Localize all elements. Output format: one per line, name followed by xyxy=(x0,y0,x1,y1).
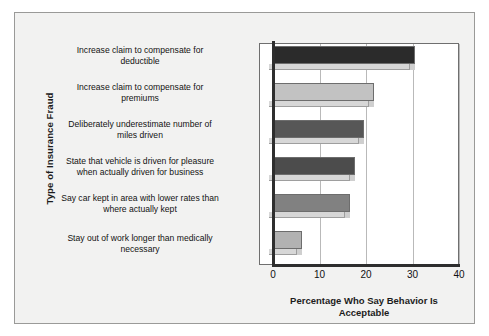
bar-group-1 xyxy=(274,83,374,120)
category-label-4: Say car kept in area with lower rates th… xyxy=(39,193,241,214)
chart-page-frame: Type of Insurance Fraud Increase claim t… xyxy=(14,12,475,324)
bar-1[interactable] xyxy=(274,83,374,101)
x-axis-tick-labels: 010203040 xyxy=(259,269,459,285)
category-label-5-line1: Stay out of work longer than medically xyxy=(67,233,212,243)
category-label-0-line1: Increase claim to compensate for xyxy=(77,45,204,55)
category-label-3: State that vehicle is driven for pleasur… xyxy=(39,156,241,177)
x-tick-label-30: 30 xyxy=(398,269,428,280)
category-label-3-line2: when actually driven for business xyxy=(77,167,204,177)
bar-side-0 xyxy=(410,64,415,70)
category-label-5: Stay out of work longer than medically n… xyxy=(39,233,241,254)
category-label-1-line2: premiums xyxy=(121,93,159,103)
insurance-fraud-bar-chart: Type of Insurance Fraud Increase claim t… xyxy=(0,0,489,336)
bar-side-4 xyxy=(345,212,350,218)
bar-group-5 xyxy=(274,231,302,268)
category-label-1-line1: Increase claim to compensate for xyxy=(77,82,204,92)
bar-5[interactable] xyxy=(274,231,302,249)
category-label-1: Increase claim to compensate for premium… xyxy=(39,82,241,103)
category-label-4-line2: where actually kept xyxy=(103,204,177,214)
bar-shadow-2 xyxy=(269,138,359,144)
gridline-40 xyxy=(459,44,460,264)
category-label-0-line2: deductible xyxy=(120,56,159,66)
bar-shadow-3 xyxy=(269,175,350,181)
bar-4[interactable] xyxy=(274,194,350,212)
category-label-0: Increase claim to compensate for deducti… xyxy=(39,45,241,66)
bar-group-4 xyxy=(274,194,350,231)
x-axis-title-line1: Percentage Who Say Behavior Is xyxy=(290,295,438,306)
bar-side-3 xyxy=(350,175,355,181)
category-label-2-line2: miles driven xyxy=(117,130,163,140)
x-axis-title: Percentage Who Say Behavior Is Acceptabl… xyxy=(259,295,469,319)
x-tick-label-0: 0 xyxy=(258,269,288,280)
x-tick-label-10: 10 xyxy=(305,269,335,280)
plot-area xyxy=(259,43,459,265)
x-axis-title-line2: Acceptable xyxy=(339,307,390,318)
category-label-3-line1: State that vehicle is driven for pleasur… xyxy=(66,156,214,166)
bar-side-1 xyxy=(369,101,374,107)
category-label-5-line2: necessary xyxy=(120,244,159,254)
bar-group-2 xyxy=(274,120,364,157)
category-label-2-line1: Deliberately underestimate number of xyxy=(68,119,211,129)
bar-0[interactable] xyxy=(274,46,415,64)
bar-side-2 xyxy=(359,138,364,144)
bar-shadow-0 xyxy=(269,64,410,70)
category-label-2: Deliberately underestimate number of mil… xyxy=(39,119,241,140)
category-label-column: Increase claim to compensate for deducti… xyxy=(39,43,241,265)
bar-shadow-1 xyxy=(269,101,369,107)
bar-2[interactable] xyxy=(274,120,364,138)
value-axis-line xyxy=(272,41,275,267)
bar-shadow-4 xyxy=(269,212,345,218)
bar-group-3 xyxy=(274,157,355,194)
x-tick-label-40: 40 xyxy=(444,269,474,280)
bar-group-0 xyxy=(274,46,415,83)
category-label-4-line1: Say car kept in area with lower rates th… xyxy=(61,193,219,203)
x-tick-label-20: 20 xyxy=(351,269,381,280)
bar-3[interactable] xyxy=(274,157,355,175)
category-axis-line xyxy=(272,264,460,267)
bar-side-5 xyxy=(297,249,302,255)
